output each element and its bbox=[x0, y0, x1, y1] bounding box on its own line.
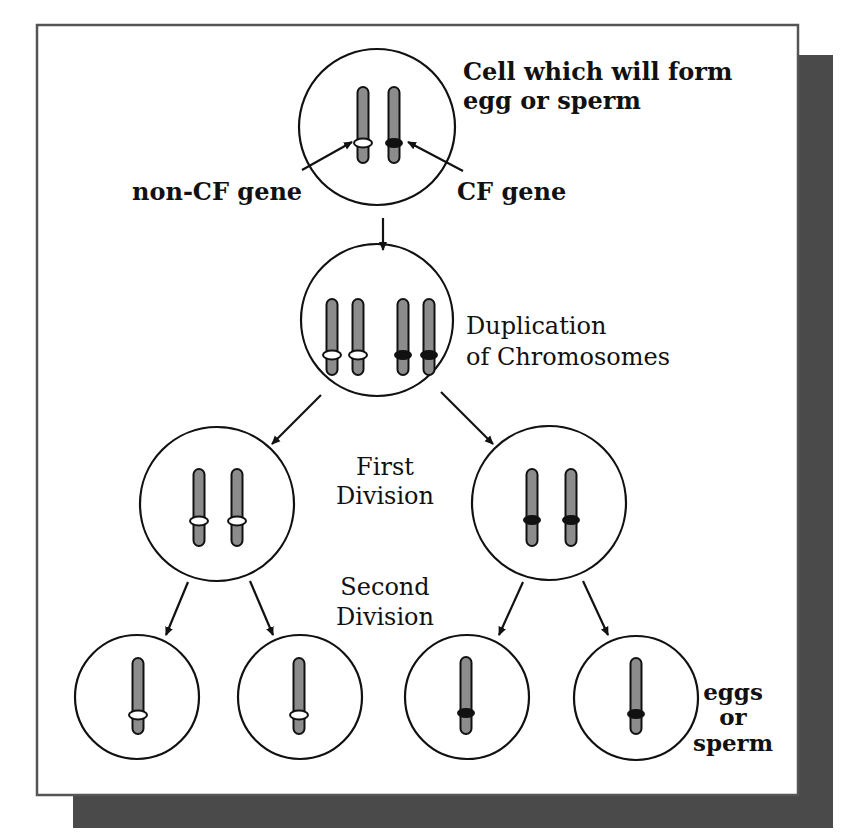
chromosome-cf bbox=[563, 469, 579, 546]
chromosome-cf bbox=[395, 299, 411, 375]
label-first-division-line1: First bbox=[356, 453, 414, 481]
label-gametes-line3: sperm bbox=[693, 729, 773, 756]
non-cf-gene-band bbox=[290, 711, 308, 720]
cf-gene-band bbox=[386, 139, 402, 147]
non-cf-gene-band bbox=[228, 517, 246, 526]
chromosome-rod bbox=[527, 469, 538, 546]
non-cf-gene-band bbox=[129, 711, 147, 720]
chromosome-rod bbox=[353, 299, 364, 375]
label-cf-gene: CF gene bbox=[457, 177, 566, 206]
chromosome-non-cf bbox=[129, 658, 147, 734]
chromosome-non-cf bbox=[228, 469, 246, 546]
cf-gene-band bbox=[421, 351, 437, 359]
chromosome-rod bbox=[358, 87, 369, 163]
cf-gene-band bbox=[628, 710, 644, 718]
label-parent-cell-line1: Cell which will form bbox=[463, 57, 732, 86]
chromosome-rod bbox=[461, 657, 472, 734]
chromosome-rod bbox=[133, 658, 144, 734]
chromosome-rod bbox=[194, 469, 205, 546]
chromosome-cf bbox=[524, 469, 540, 546]
figure-frame bbox=[37, 25, 798, 795]
non-cf-gene-band bbox=[354, 139, 372, 148]
chromosome-cf bbox=[386, 87, 402, 163]
chromosome-rod bbox=[566, 469, 577, 546]
chromosome-rod bbox=[389, 87, 400, 163]
diagram-canvas: Cell which will form egg or sperm non-CF… bbox=[0, 0, 845, 840]
chromosome-non-cf bbox=[323, 299, 341, 375]
chromosome-rod bbox=[327, 299, 338, 375]
label-second-division-line2: Division bbox=[336, 603, 434, 631]
label-non-cf-gene: non-CF gene bbox=[132, 177, 302, 206]
label-duplication-line2: of Chromosomes bbox=[466, 343, 670, 371]
label-gametes-line1: eggs bbox=[703, 678, 763, 705]
label-second-division-line1: Second bbox=[340, 573, 429, 601]
chromosome-cf bbox=[421, 299, 437, 375]
meiosis-cf-diagram: Cell which will form egg or sperm non-CF… bbox=[0, 0, 845, 840]
chromosome-rod bbox=[631, 658, 642, 734]
cf-gene-band bbox=[458, 709, 474, 717]
label-first-division-line2: Division bbox=[336, 482, 434, 510]
non-cf-gene-band bbox=[323, 351, 341, 360]
cf-gene-band bbox=[395, 351, 411, 359]
chromosome-rod bbox=[398, 299, 409, 375]
non-cf-gene-band bbox=[349, 351, 367, 360]
chromosome-rod bbox=[294, 658, 305, 734]
chromosome-non-cf bbox=[354, 87, 372, 163]
label-gametes-line2: or bbox=[719, 703, 747, 730]
cf-gene-band bbox=[524, 516, 540, 524]
chromosome-cf bbox=[628, 658, 644, 734]
non-cf-gene-band bbox=[190, 517, 208, 526]
label-duplication-line1: Duplication bbox=[466, 312, 606, 340]
label-parent-cell-line2: egg or sperm bbox=[463, 86, 641, 115]
chromosome-rod bbox=[424, 299, 435, 375]
chromosome-rod bbox=[232, 469, 243, 546]
chromosome-cf bbox=[458, 657, 474, 734]
chromosome-non-cf bbox=[190, 469, 208, 546]
chromosome-non-cf bbox=[290, 658, 308, 734]
cf-gene-band bbox=[563, 516, 579, 524]
chromosome-non-cf bbox=[349, 299, 367, 375]
